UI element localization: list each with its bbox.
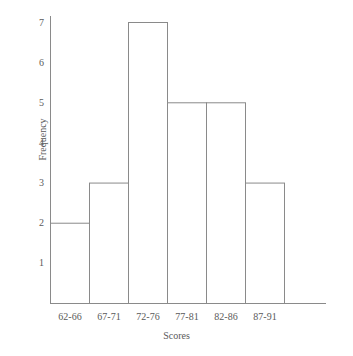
bar-series	[51, 23, 285, 304]
y-axis-tick-label: 3	[30, 178, 44, 188]
x-axis-tick-label: 87-91	[235, 311, 295, 322]
histogram-chart: 1234567 62-6667-7172-7677-8182-8687-91 F…	[0, 0, 353, 356]
histogram-bar	[207, 103, 246, 304]
y-axis-tick-label: 6	[30, 58, 44, 68]
histogram-bar	[51, 223, 90, 303]
histogram-plot-area	[0, 0, 353, 356]
y-axis-tick-label: 2	[30, 218, 44, 228]
y-axis-tick-label: 1	[30, 258, 44, 268]
y-axis-tick-label: 5	[30, 98, 44, 108]
x-axis-title: Scores	[0, 330, 353, 341]
histogram-bar	[168, 103, 207, 304]
histogram-bar	[90, 183, 129, 303]
histogram-bar	[246, 183, 285, 303]
y-axis-title: Frequency	[37, 110, 48, 170]
y-axis-tick-label: 7	[30, 18, 44, 28]
histogram-bar	[129, 23, 168, 304]
